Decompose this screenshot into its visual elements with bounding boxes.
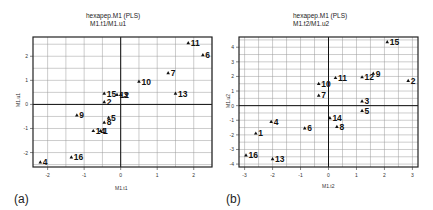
svg-text:-4: -4 (230, 161, 235, 167)
svg-text:0: 0 (327, 172, 330, 178)
scatter-plot-b: -3-2-10123-4-3-2-10123412345678910111213… (216, 0, 432, 210)
svg-text:2: 2 (192, 172, 195, 178)
data-point: 15 (385, 37, 399, 47)
svg-text:4: 4 (231, 44, 234, 50)
svg-text:12: 12 (365, 72, 375, 82)
panel-a: hexapep.M1 (PLS) M1.t1/M1.u1 M1.u1 M1.t1… (0, 0, 216, 210)
svg-text:2: 2 (383, 172, 386, 178)
svg-text:1: 1 (25, 77, 28, 83)
scatter-plot-a: -2-1012-2-101212345678910111213141516 (0, 0, 216, 210)
svg-text:-1: -1 (298, 172, 303, 178)
data-point: 10 (317, 79, 331, 89)
svg-text:-3: -3 (242, 172, 247, 178)
data-point: 7 (166, 68, 175, 78)
svg-text:3: 3 (231, 59, 234, 65)
svg-text:2: 2 (231, 73, 234, 79)
svg-text:-3: -3 (230, 146, 235, 152)
data-point: 6 (201, 50, 210, 60)
data-point: 2 (406, 76, 415, 86)
data-point: 13 (174, 89, 188, 99)
data-point: 4 (269, 117, 278, 127)
svg-text:7: 7 (171, 68, 176, 78)
data-point: 11 (334, 73, 348, 83)
data-point: 14 (91, 126, 105, 136)
svg-text:10: 10 (321, 79, 331, 89)
svg-text:13: 13 (275, 154, 285, 164)
svg-text:0: 0 (119, 172, 122, 178)
svg-text:1: 1 (258, 128, 263, 138)
svg-text:3: 3 (411, 172, 414, 178)
svg-text:7: 7 (321, 90, 326, 100)
svg-text:9: 9 (376, 69, 381, 79)
svg-text:2: 2 (25, 53, 28, 59)
svg-text:-2: -2 (270, 172, 275, 178)
svg-text:6: 6 (307, 123, 312, 133)
svg-text:16: 16 (248, 150, 258, 160)
svg-text:1: 1 (231, 88, 234, 94)
svg-text:-2: -2 (45, 172, 50, 178)
svg-text:-2: -2 (230, 132, 235, 138)
svg-text:11: 11 (338, 73, 347, 83)
data-point: 12 (115, 90, 129, 100)
svg-text:8: 8 (339, 122, 344, 132)
data-point: 10 (137, 77, 151, 87)
svg-text:6: 6 (205, 50, 210, 60)
data-point: 7 (317, 90, 326, 100)
data-point: 15 (102, 89, 116, 99)
data-point: 1 (254, 128, 263, 138)
svg-text:4: 4 (274, 117, 279, 127)
svg-text:5: 5 (111, 113, 116, 123)
data-point: 14 (328, 113, 342, 123)
data-point: 4 (39, 157, 48, 167)
svg-text:16: 16 (74, 152, 84, 162)
data-point: 11 (186, 38, 200, 48)
svg-text:1: 1 (355, 172, 358, 178)
svg-text:15: 15 (390, 37, 400, 47)
svg-text:1: 1 (156, 172, 159, 178)
svg-text:15: 15 (107, 89, 117, 99)
svg-text:14: 14 (96, 126, 106, 136)
data-point: 6 (303, 123, 312, 133)
svg-text:10: 10 (141, 77, 151, 87)
data-point: 9 (75, 110, 84, 120)
data-point: 5 (360, 106, 369, 116)
svg-text:14: 14 (332, 113, 342, 123)
svg-text:0: 0 (231, 103, 234, 109)
svg-text:-2: -2 (24, 150, 29, 156)
svg-text:11: 11 (191, 38, 200, 48)
svg-text:-1: -1 (230, 117, 235, 123)
svg-text:12: 12 (120, 90, 130, 100)
data-point: 8 (335, 122, 344, 132)
data-point: 13 (271, 154, 285, 164)
svg-text:0: 0 (25, 101, 28, 107)
data-point: 16 (244, 150, 258, 160)
svg-text:13: 13 (178, 89, 188, 99)
svg-text:8: 8 (107, 117, 112, 127)
data-point: 12 (360, 72, 374, 82)
panel-b: hexapep.M1 (PLS) M1.t2/M1.u2 M1.u2 M1.t2… (216, 0, 432, 210)
svg-text:4: 4 (43, 157, 48, 167)
svg-text:-1: -1 (24, 125, 29, 131)
svg-text:5: 5 (365, 106, 370, 116)
svg-text:9: 9 (79, 110, 84, 120)
data-point: 16 (70, 152, 84, 162)
svg-text:2: 2 (411, 76, 416, 86)
svg-text:-1: -1 (82, 172, 87, 178)
